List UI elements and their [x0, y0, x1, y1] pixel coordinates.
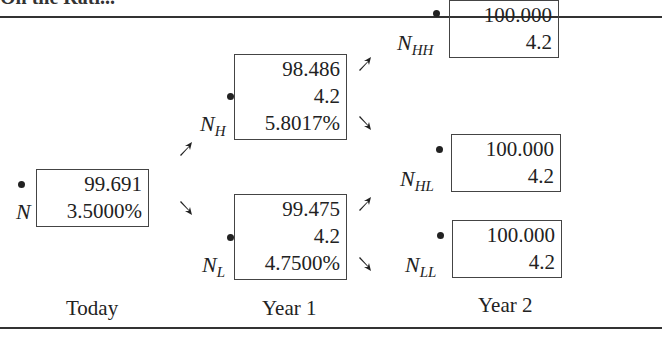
node-dot-n: [18, 181, 25, 188]
node-label-text: N: [16, 199, 31, 224]
node-label-text: N: [397, 30, 412, 55]
node-price: 99.475: [241, 196, 340, 223]
arrow-up-icon: [357, 56, 373, 72]
node-box-nl: 99.475 4.2 4.7500%: [234, 194, 347, 280]
node-price: 100.000: [458, 136, 554, 163]
node-label-nl: NL: [202, 252, 225, 281]
node-label-text: N: [200, 111, 215, 136]
node-label-sub: HL: [415, 178, 434, 194]
node-label-n: N: [16, 199, 31, 225]
node-rate: 5.8017%: [241, 110, 340, 137]
node-label-sub: LL: [420, 264, 437, 280]
node-coupon: 4.2: [456, 29, 552, 56]
node-price: 99.691: [43, 171, 142, 198]
node-label-text: N: [400, 166, 415, 191]
node-coupon: 4.2: [241, 83, 340, 110]
node-label-text: N: [202, 252, 217, 277]
node-label-nhl: NHL: [400, 166, 434, 195]
node-label-nhh: NHH: [397, 30, 433, 59]
node-box-nh: 98.486 4.2 5.8017%: [234, 54, 347, 140]
node-box-nhl: 100.000 4.2: [451, 134, 561, 192]
arrow-up-icon: [357, 196, 373, 212]
node-box-n: 99.691 3.5000%: [36, 169, 149, 227]
node-dot-nll: [437, 232, 444, 239]
node-coupon: 4.2: [241, 223, 340, 250]
node-label-sub: H: [215, 123, 226, 139]
clipped-header-text: On the Rati...: [0, 0, 115, 9]
node-box-nll: 100.000 4.2: [452, 220, 562, 278]
node-label-nll: NLL: [405, 252, 436, 281]
node-price: 100.000: [459, 222, 555, 249]
node-label-nh: NH: [200, 111, 226, 140]
node-rate: 3.5000%: [43, 198, 142, 225]
arrow-up-icon: [178, 141, 194, 157]
node-dot-nhh: [433, 10, 440, 17]
node-label-text: N: [405, 252, 420, 277]
node-dot-nl: [227, 234, 234, 241]
node-coupon: 4.2: [459, 249, 555, 276]
node-coupon: 4.2: [458, 163, 554, 190]
node-label-sub: L: [217, 264, 225, 280]
time-label-year-1: Year 1: [262, 296, 316, 321]
node-dot-nh: [227, 93, 234, 100]
arrow-down-icon: [357, 115, 373, 131]
node-price: 98.486: [241, 56, 340, 83]
node-box-nhh: 100.000 4.2: [449, 0, 559, 58]
node-label-sub: HH: [412, 42, 434, 58]
node-price: 100.000: [456, 2, 552, 29]
node-dot-nhl: [436, 146, 443, 153]
arrow-down-icon: [178, 200, 194, 216]
node-rate: 4.7500%: [241, 250, 340, 277]
time-label-today: Today: [66, 296, 118, 321]
arrow-down-icon: [357, 256, 373, 272]
time-label-year-2: Year 2: [478, 293, 532, 318]
bottom-rule: [0, 327, 662, 329]
top-rule: [0, 16, 662, 18]
